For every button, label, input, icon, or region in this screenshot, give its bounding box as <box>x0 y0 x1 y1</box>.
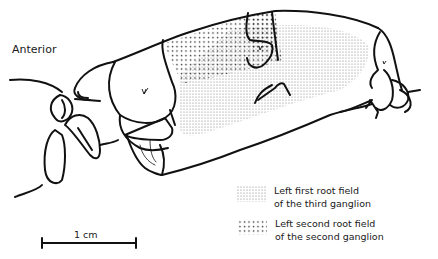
legend-swatch-fine <box>237 186 267 202</box>
legend-item-2-line2: of the second ganglion <box>275 230 384 243</box>
legend-item-2-line1: Left second root field <box>275 217 375 230</box>
legend-swatch-coarse <box>237 220 267 235</box>
anterior-label: Anterior <box>12 43 56 56</box>
legend-item-1-line1: Left first root field <box>274 184 359 197</box>
legend-item-1-line2: of the third ganglion <box>274 197 371 210</box>
scale-bar-label: 1 cm <box>74 228 98 241</box>
